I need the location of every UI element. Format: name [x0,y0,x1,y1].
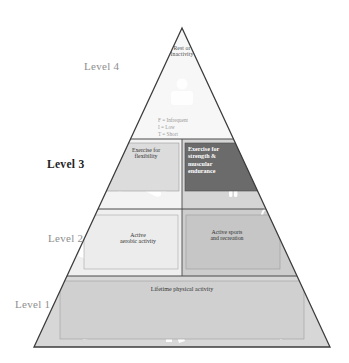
caption-active-aerobic: Active aerobic activity [107,232,169,245]
legend-fit-low: I = Low [158,124,218,131]
pyramid-figure: Level 4 Level 3 Level 2 Level 1 Rest or … [0,0,349,363]
apex-caption-rest-or-inactivity: Rest or Inactivity [156,45,208,58]
box-active-sports [186,215,280,269]
level-4-label: Level 4 [84,61,119,72]
level-3-label: Level 3 [47,159,85,171]
caption-exercise-strength: Exercise for strength & muscular enduran… [188,146,240,175]
level-1-label: Level 1 [15,299,50,310]
legend-fit-short: T = Short [158,131,218,138]
caption-active-sports: Active sports and recreation [196,229,258,242]
legend-fit-infrequent: F = Infrequent [158,117,218,124]
caption-lifetime-activity: Lifetime physical activity [112,286,252,293]
level-2-label: Level 2 [48,233,83,244]
caption-exercise-flexibility: Exercise for flexibility [117,147,175,160]
